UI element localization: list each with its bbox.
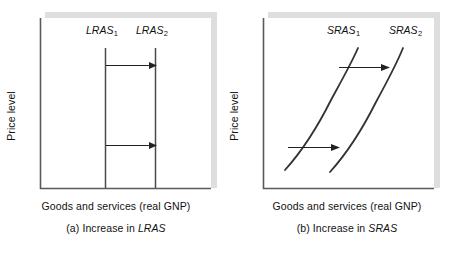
panel-lras: LRAS1 LRAS2 Price level Goods and servic…: [0, 0, 232, 254]
x-axis-label-a: Goods and services (real GNP): [0, 200, 232, 212]
shadow-right: [434, 12, 440, 188]
curve-label-lras-1: LRAS1: [86, 24, 118, 36]
curve-label-sras-2: SRAS2: [389, 24, 422, 36]
curve-label-lras-2: LRAS2: [136, 24, 168, 36]
panel-caption-b: (b) Increase in SRAS: [231, 222, 463, 234]
caption-prefix-b: (b) Increase in: [297, 222, 369, 234]
panel-caption-a: (a) Increase in LRAS: [0, 222, 232, 234]
shadow-top: [268, 12, 440, 18]
y-axis-label-a: Price level: [4, 62, 18, 170]
caption-term-a: LRAS: [138, 222, 166, 234]
shadow-top: [45, 12, 217, 18]
caption-term-b: SRAS: [368, 222, 397, 234]
shadow-right: [211, 12, 217, 188]
y-axis-label-b: Price level: [227, 62, 241, 170]
curve-label-sras-1: SRAS1: [327, 24, 360, 36]
x-axis-label-b: Goods and services (real GNP): [231, 200, 463, 212]
plot-face: [40, 18, 211, 188]
figure-container: LRAS1 LRAS2 Price level Goods and servic…: [0, 0, 463, 254]
panel-sras: SRAS1 SRAS2 Price level Goods and servic…: [231, 0, 463, 254]
caption-prefix-a: (a) Increase in: [66, 222, 138, 234]
plot-face: [263, 18, 434, 188]
